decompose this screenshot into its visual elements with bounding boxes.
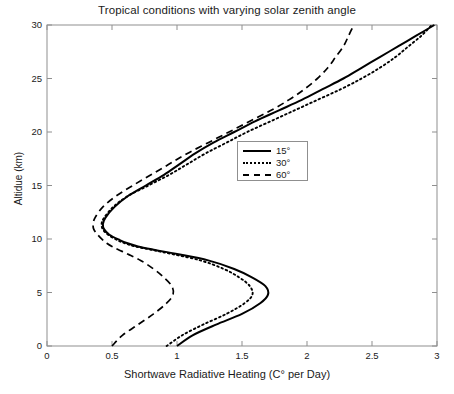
plot-frame — [47, 25, 437, 346]
x-tick-label: 1.5 — [222, 350, 262, 361]
legend-label-60: 60° — [276, 168, 290, 181]
x-tick-label: 0.5 — [92, 350, 132, 361]
legend-swatch-dashed — [243, 174, 271, 178]
y-tick-label: 30 — [16, 19, 42, 30]
chart-legend: 15° 30° 60° — [237, 141, 308, 181]
y-tick-label: 0 — [16, 340, 42, 351]
y-tick-label: 5 — [16, 287, 42, 298]
x-tick-label: 2.5 — [352, 350, 392, 361]
x-axis-label: Shortwave Radiative Heating (C° per Day) — [0, 368, 454, 380]
y-tick-label: 20 — [16, 126, 42, 137]
legend-swatch-dotted — [243, 162, 271, 166]
series-line-15deg — [103, 25, 435, 346]
x-tick-label: 3 — [417, 350, 454, 361]
y-tick-label: 10 — [16, 233, 42, 244]
y-axis-label: Altidue (km) — [13, 124, 24, 234]
y-tick-label: 25 — [16, 73, 42, 84]
legend-swatch-solid — [243, 150, 271, 154]
y-tick-label: 15 — [16, 180, 42, 191]
x-tick-label: 2 — [287, 350, 327, 361]
x-tick-label: 1 — [157, 350, 197, 361]
x-tick-label: 0 — [27, 350, 67, 361]
plot-canvas — [0, 0, 454, 394]
series-line-60deg — [93, 25, 354, 346]
legend-item-60: 60° — [238, 168, 309, 181]
chart-figure: Tropical conditions with varying solar z… — [0, 0, 454, 394]
